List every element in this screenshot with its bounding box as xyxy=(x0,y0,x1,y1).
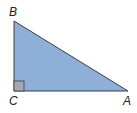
triangle-abc xyxy=(14,21,128,91)
right-angle-marker xyxy=(14,81,24,91)
vertex-label-c: C xyxy=(9,94,18,108)
vertex-label-a: A xyxy=(122,94,131,108)
vertex-label-b: B xyxy=(9,5,17,19)
triangle-diagram: B C A xyxy=(0,0,137,113)
